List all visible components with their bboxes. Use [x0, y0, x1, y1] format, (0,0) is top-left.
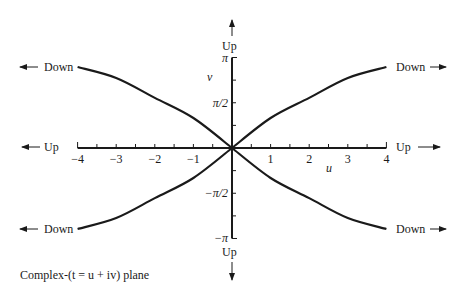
x-tick-label: 4 — [383, 152, 389, 166]
curve-upper-right — [232, 67, 386, 148]
x-tick-label: −3 — [110, 152, 123, 166]
top-direction-label: Up — [222, 39, 237, 53]
lower-right-direction-label: Down — [396, 222, 425, 236]
y-tick-label: −π/2 — [205, 186, 228, 200]
right-axis-direction-label: Up — [396, 140, 411, 154]
y-axis-label: v — [207, 70, 213, 84]
x-tick-label: 1 — [268, 152, 274, 166]
x-tick-label: −4 — [71, 152, 84, 166]
y-tick-label: −π — [214, 231, 229, 245]
upper-left-direction-label: Down — [44, 60, 73, 74]
left-axis-direction-label: Up — [44, 140, 59, 154]
x-tick-label: 2 — [306, 152, 312, 166]
upper-right-direction-label: Down — [396, 60, 425, 74]
x-tick-label: 3 — [345, 152, 351, 166]
lower-left-direction-label: Down — [44, 222, 73, 236]
x-axis-label: u — [326, 161, 332, 175]
complex-plane-diagram: −4−3−2−11234ππ/2−π/2−π Up Up Up Up Down … — [0, 0, 468, 301]
caption: Complex-(t = u + iv) plane — [20, 268, 149, 282]
x-tick-label: −1 — [187, 152, 200, 166]
y-tick-label: π/2 — [213, 96, 228, 110]
bottom-direction-label: Up — [222, 245, 237, 259]
x-tick-label: −2 — [148, 152, 161, 166]
